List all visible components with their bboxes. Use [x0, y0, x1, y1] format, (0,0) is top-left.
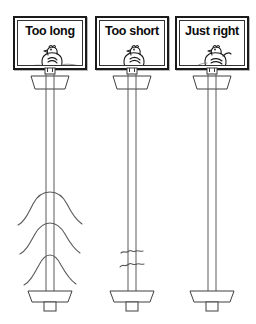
bracket-clip-icon [127, 68, 137, 74]
diagram-canvas: Too long / Too short / Just right compar… [0, 0, 256, 324]
bracket-clip-icon [207, 68, 217, 74]
bracket-clip-icon [45, 68, 55, 74]
collar-icon [193, 76, 231, 89]
post-icon [128, 74, 136, 299]
post-icon [46, 74, 54, 299]
crimped-wire-icon [120, 250, 144, 267]
base-plate-icon [110, 291, 154, 311]
collar-icon [31, 76, 69, 89]
drooping-wire-icon [18, 192, 82, 285]
post-assembly-just-right [162, 0, 256, 324]
base-plate-icon [190, 291, 234, 311]
post-icon [208, 74, 216, 299]
base-plate-icon [28, 291, 72, 311]
collar-icon [113, 76, 151, 89]
panel-column-just-right: Just right [162, 0, 256, 324]
